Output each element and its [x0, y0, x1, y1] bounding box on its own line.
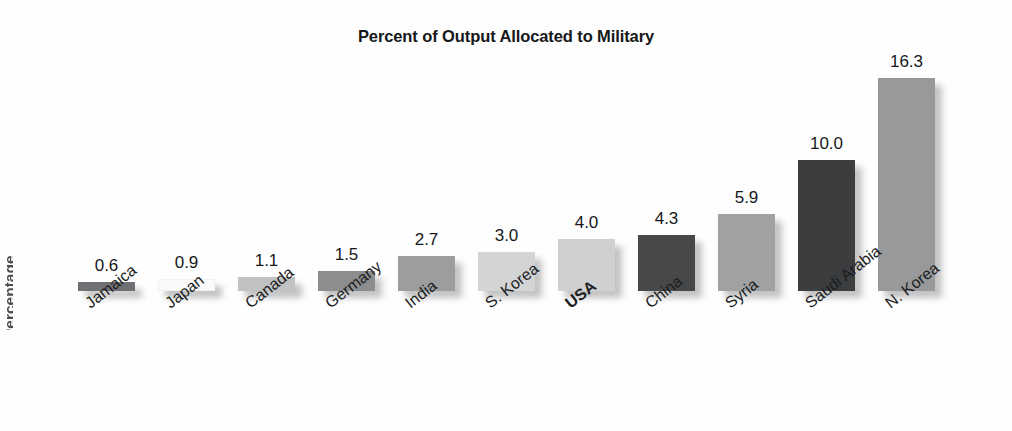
bar-group-usa[interactable]: 4.0USA: [558, 239, 615, 291]
bar-group-jamaica[interactable]: 0.6Jamaica: [78, 282, 135, 291]
bar-value-label: 10.0: [810, 134, 843, 154]
bar-value-label: 3.0: [495, 226, 519, 246]
bar-value-label: 1.5: [335, 245, 359, 265]
bar-group-china[interactable]: 4.3China: [638, 235, 695, 291]
bar-group-n-korea[interactable]: 16.3N. Korea: [878, 78, 935, 291]
bar-group-canada[interactable]: 1.1Canada: [238, 277, 295, 291]
chart-figure: Percent of Output Allocated to Military …: [0, 0, 1012, 431]
bar-value-label: 16.3: [890, 52, 923, 72]
bar-group-germany[interactable]: 1.5Germany: [318, 271, 375, 291]
bar-group-s-korea[interactable]: 3.0S. Korea: [478, 252, 535, 291]
bar-group-syria[interactable]: 5.9Syria: [718, 214, 775, 291]
plot-area: 0.6Jamaica0.9Japan1.1Canada1.5Germany2.7…: [0, 0, 1012, 431]
bar-group-japan[interactable]: 0.9Japan: [158, 279, 215, 291]
bar-group-saudi-arabia[interactable]: 10.0Saudi Arabia: [798, 160, 855, 291]
bar-value-label: 4.0: [575, 213, 599, 233]
bar-group-india[interactable]: 2.7India: [398, 256, 455, 291]
bar-value-label: 1.1: [255, 251, 279, 271]
bar-rect[interactable]: [878, 78, 935, 291]
bar-value-label: 2.7: [415, 230, 439, 250]
bar-value-label: 4.3: [655, 209, 679, 229]
bar-value-label: 0.9: [175, 253, 199, 273]
bar-value-label: 5.9: [735, 188, 759, 208]
